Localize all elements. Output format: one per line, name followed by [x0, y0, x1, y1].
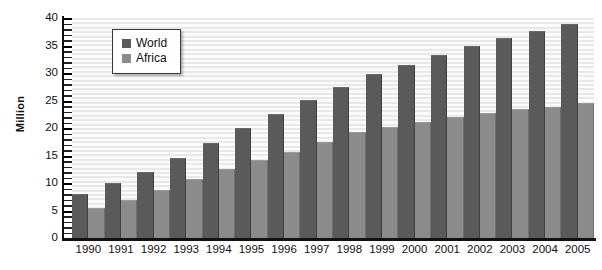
- bar-africa-2005: [578, 103, 594, 238]
- y-axis-tick-label: 5: [36, 205, 58, 217]
- bar-world-1992: [137, 172, 153, 238]
- x-axis-tick-label: 2000: [398, 243, 431, 255]
- bar-world-2004: [529, 31, 545, 238]
- bar-africa-1994: [219, 169, 235, 238]
- y-axis-minor-tick: [64, 150, 72, 152]
- x-axis-tick-label: 1995: [235, 243, 268, 255]
- y-axis-tick-label: 30: [36, 67, 58, 79]
- y-axis-tick-label: 25: [36, 95, 58, 107]
- bar-africa-1993: [186, 179, 202, 238]
- bar-africa-1997: [317, 142, 333, 238]
- bar-world-1995: [235, 128, 251, 238]
- y-axis-minor-tick: [64, 68, 72, 70]
- x-axis-tick-label: 1998: [333, 243, 366, 255]
- x-axis-tick-label: 2003: [496, 243, 529, 255]
- y-axis-minor-tick: [64, 57, 72, 59]
- bar-group: [561, 18, 594, 238]
- x-axis-tick-label: 1994: [203, 243, 236, 255]
- bar-world-2003: [496, 38, 512, 238]
- legend-swatch-icon: [122, 54, 131, 63]
- bar-group: [398, 18, 431, 238]
- bar-world-2001: [431, 55, 447, 238]
- y-axis-minor-tick: [64, 189, 72, 191]
- y-axis-tick-label: 10: [36, 177, 58, 189]
- y-axis-minor-tick: [64, 62, 72, 64]
- y-axis-minor-tick: [64, 51, 72, 53]
- y-axis-minor-tick: [64, 205, 72, 207]
- legend-item-africa: Africa: [122, 52, 167, 66]
- y-axis-minor-tick: [64, 117, 72, 119]
- y-axis-minor-tick: [64, 29, 72, 31]
- bar-world-2002: [464, 46, 480, 238]
- bar-africa-2003: [512, 109, 528, 238]
- bar-africa-1996: [284, 152, 300, 238]
- bar-africa-2004: [545, 107, 561, 238]
- x-axis-tick-label: 1991: [105, 243, 138, 255]
- y-axis-minor-tick: [64, 95, 72, 97]
- bar-group: [431, 18, 464, 238]
- bar-world-2005: [561, 24, 577, 238]
- y-axis-minor-tick: [64, 139, 72, 141]
- bar-group: [496, 18, 529, 238]
- bar-group: [300, 18, 333, 238]
- bar-africa-2000: [415, 122, 431, 239]
- x-axis-line: [62, 238, 596, 241]
- bar-group: [464, 18, 497, 238]
- x-axis-tick-label: 1992: [137, 243, 170, 255]
- y-axis-minor-tick: [64, 123, 72, 125]
- chart-legend: WorldAfrica: [112, 29, 181, 74]
- y-axis-minor-tick: [64, 227, 72, 229]
- legend-item-world: World: [122, 37, 167, 51]
- y-axis-minor-tick: [64, 222, 72, 224]
- y-axis-title: Million: [14, 74, 26, 154]
- y-axis-minor-tick: [64, 167, 72, 169]
- bar-world-1994: [203, 143, 219, 238]
- y-axis-minor-tick: [64, 216, 72, 218]
- y-axis-minor-tick: [64, 106, 72, 108]
- bar-africa-1999: [382, 127, 398, 238]
- x-axis-tick-label: 2005: [561, 243, 594, 255]
- bar-africa-1998: [349, 132, 365, 238]
- y-axis-tick-label: 0: [36, 232, 58, 244]
- x-axis-tick-label: 1996: [268, 243, 301, 255]
- bar-group: [333, 18, 366, 238]
- bar-group: [529, 18, 562, 238]
- bar-group: [235, 18, 268, 238]
- bar-world-1993: [170, 158, 186, 238]
- y-axis-minor-tick: [64, 84, 72, 86]
- y-axis-minor-tick: [64, 24, 72, 26]
- y-axis-tick-marks: [64, 18, 72, 238]
- bar-africa-1992: [154, 190, 170, 238]
- y-axis-minor-tick: [64, 35, 72, 37]
- y-axis-minor-tick: [64, 90, 72, 92]
- y-axis-minor-tick: [64, 79, 72, 81]
- y-axis-minor-tick: [64, 145, 72, 147]
- bar-world-1996: [268, 114, 284, 238]
- y-axis-tick-labels: 4035302520151050: [36, 18, 58, 238]
- x-axis-tick-label: 1993: [170, 243, 203, 255]
- y-axis-tick-label: 20: [36, 122, 58, 134]
- legend-item-label: Africa: [136, 52, 167, 66]
- bar-africa-2002: [480, 113, 496, 238]
- y-axis-minor-tick: [64, 172, 72, 174]
- bar-world-1997: [300, 100, 316, 239]
- bar-africa-1995: [251, 160, 267, 238]
- y-axis-minor-tick: [64, 161, 72, 163]
- bar-world-1999: [366, 74, 382, 238]
- y-axis-minor-tick: [64, 200, 72, 202]
- bar-group: [268, 18, 301, 238]
- x-axis-tick-label: 2002: [464, 243, 497, 255]
- y-axis-tick-label: 35: [36, 40, 58, 52]
- x-axis-tick-label: 2004: [529, 243, 562, 255]
- bar-world-2000: [398, 65, 414, 238]
- bar-group: [366, 18, 399, 238]
- y-axis-minor-tick: [64, 178, 72, 180]
- y-axis-tick-label: 40: [36, 12, 58, 24]
- x-axis-tick-label: 2001: [431, 243, 464, 255]
- y-axis-minor-tick: [64, 194, 72, 196]
- bar-group: [203, 18, 236, 238]
- bar-world-1990: [72, 194, 88, 238]
- x-axis-tick-labels: 1990199119921993199419951996199719981999…: [72, 243, 594, 255]
- bar-world-1991: [105, 183, 121, 238]
- legend-swatch-icon: [122, 39, 131, 48]
